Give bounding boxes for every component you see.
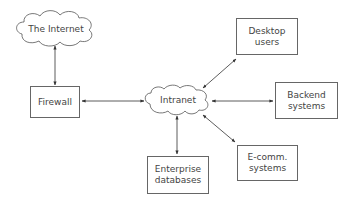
backend-label-line2: systems xyxy=(288,101,325,112)
enterprise-label-line1: Enterprise xyxy=(155,164,201,175)
firewall-label: Firewall xyxy=(38,97,72,108)
backend-systems-node: Backend systems xyxy=(275,82,338,119)
ecomm-label-line2: systems xyxy=(249,163,286,174)
desktop-users-node: Desktop users xyxy=(236,18,298,55)
desktop-label-line1: Desktop xyxy=(248,26,285,37)
internet-label: The Internet xyxy=(28,24,83,34)
ecomm-systems-node: E-comm. systems xyxy=(237,145,298,181)
intranet-label: Intranet xyxy=(160,95,196,105)
ecomm-label-line1: E-comm. xyxy=(248,152,288,163)
enterprise-databases-node: Enterprise databases xyxy=(147,156,209,194)
enterprise-label-line2: databases xyxy=(155,175,201,186)
firewall-node: Firewall xyxy=(30,86,80,118)
desktop-label-line2: users xyxy=(255,37,279,48)
backend-label-line1: Backend xyxy=(287,90,325,101)
arrow-intranet-ecomm xyxy=(203,115,235,142)
arrow-intranet-desktop xyxy=(203,59,236,88)
internet-node-label: The Internet xyxy=(20,20,92,38)
intranet-node-label: Intranet xyxy=(150,92,206,108)
